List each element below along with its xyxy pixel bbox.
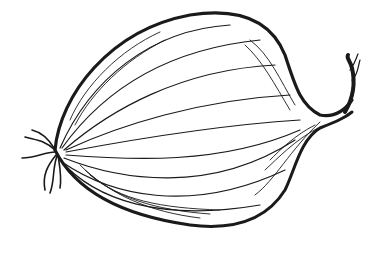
onion-illustration	[0, 0, 385, 255]
stem	[345, 55, 354, 112]
onion-drawing	[0, 0, 385, 255]
edge-hatching	[70, 32, 320, 218]
